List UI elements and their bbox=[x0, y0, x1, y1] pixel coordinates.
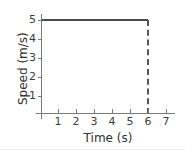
speed-time-chart: 1 2 3 4 5 6 7 5 4 3 2 1 Time (s) Speed (… bbox=[0, 0, 185, 156]
x-tick-7 bbox=[166, 109, 167, 113]
x-tick-label-2: 2 bbox=[69, 116, 83, 128]
x-tick-label-6: 6 bbox=[141, 116, 155, 128]
x-tick-label-5: 5 bbox=[123, 116, 137, 128]
x-tick-label-3: 3 bbox=[87, 116, 101, 128]
x-axis-title: Time (s) bbox=[41, 131, 175, 145]
x-axis-line bbox=[36, 113, 175, 114]
x-tick-1 bbox=[58, 109, 59, 113]
x-tick-4 bbox=[112, 109, 113, 113]
y-tick-2 bbox=[38, 77, 42, 78]
y-axis-title: Speed (m/s) bbox=[16, 32, 30, 105]
x-tick-5 bbox=[130, 109, 131, 113]
constant-speed-line bbox=[41, 19, 148, 21]
y-tick-label-5: 5 bbox=[24, 14, 36, 26]
y-tick-3 bbox=[38, 58, 42, 59]
x-tick-label-7: 7 bbox=[159, 116, 173, 128]
y-tick-4 bbox=[38, 39, 42, 40]
x-tick-6 bbox=[148, 109, 149, 113]
x-tick-label-4: 4 bbox=[105, 116, 119, 128]
dashed-drop-line bbox=[147, 20, 149, 114]
bottom-divider bbox=[0, 149, 185, 150]
y-tick-5 bbox=[38, 20, 42, 21]
y-axis-line bbox=[41, 14, 42, 119]
x-tick-3 bbox=[94, 109, 95, 113]
y-tick-1 bbox=[38, 96, 42, 97]
x-tick-label-1: 1 bbox=[51, 116, 65, 128]
x-tick-2 bbox=[76, 109, 77, 113]
